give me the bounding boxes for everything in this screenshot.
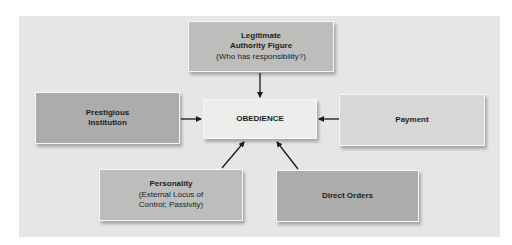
node-obedience: OBEDIENCE bbox=[203, 99, 317, 139]
node-title: Legitimate bbox=[241, 31, 281, 41]
node-direct-orders: Direct Orders bbox=[276, 170, 419, 222]
node-personality: Personality (External Locus of Control; … bbox=[99, 169, 243, 221]
node-title: Institution bbox=[88, 118, 127, 128]
node-title: Direct Orders bbox=[322, 191, 373, 201]
node-title: Authority Figure bbox=[230, 41, 292, 51]
node-title: Prestigious bbox=[86, 108, 130, 118]
center-label: OBEDIENCE bbox=[236, 114, 284, 124]
node-payment: Payment bbox=[339, 94, 485, 146]
node-legitimate-authority: Legitimate Authority Figure (Who has res… bbox=[188, 21, 334, 72]
node-title: Payment bbox=[395, 115, 428, 125]
node-title: Personality bbox=[149, 179, 192, 189]
node-subtitle: Control; Passivity) bbox=[139, 200, 203, 210]
node-prestigious-institution: Prestigious Institution bbox=[35, 92, 180, 144]
node-subtitle: (Who has responsibility?) bbox=[216, 52, 306, 62]
node-subtitle: (External Locus of bbox=[139, 190, 203, 200]
